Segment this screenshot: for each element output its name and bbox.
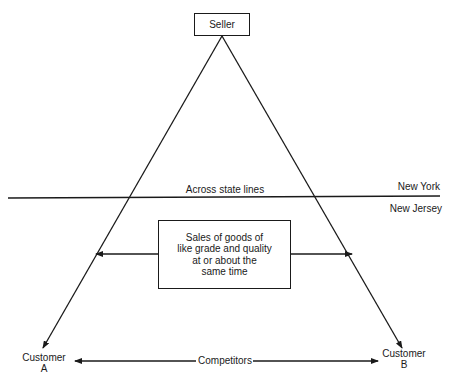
competitors-label: Competitors: [194, 355, 256, 366]
state-line-label: Across state lines: [170, 184, 280, 195]
state-new-jersey: New Jersey: [370, 203, 442, 214]
state-border-line: [8, 196, 440, 198]
state-new-york: New York: [380, 181, 440, 192]
seller-box: Seller: [194, 13, 250, 36]
box-line-4: same time: [201, 266, 247, 278]
box-line-1: Sales of goods of: [186, 232, 263, 244]
customer-b-label: Customer B: [378, 348, 430, 370]
customer-a-label: Customer A: [18, 352, 70, 374]
box-line-2: like grade and quality: [177, 243, 272, 255]
box-line-3: at or about the: [192, 255, 257, 267]
sales-condition-box: Sales of goods of like grade and quality…: [158, 220, 291, 289]
seller-label: Seller: [209, 19, 235, 31]
